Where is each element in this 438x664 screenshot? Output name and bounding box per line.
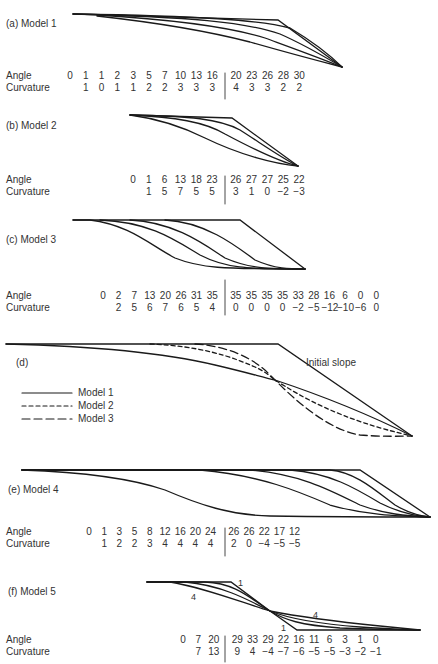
panel-e-curvature-value: 4 bbox=[203, 538, 219, 549]
panel-c-angle-value: 0 bbox=[368, 290, 384, 301]
panel-f-angle-value: 1 bbox=[352, 634, 368, 645]
panel-c-angle-value: 16 bbox=[321, 290, 337, 301]
panel-c-curvature-value: 7 bbox=[157, 302, 173, 313]
panel-b-angle-value: 18 bbox=[188, 174, 204, 185]
panel-c-angle-value: 35 bbox=[243, 290, 259, 301]
panel-b-angle-value: 0 bbox=[125, 174, 141, 185]
panel-b-angle-value: 25 bbox=[275, 174, 291, 185]
panel-f-curvature-value: 9 bbox=[229, 646, 245, 657]
panel-e-curvature-value: −4 bbox=[256, 538, 272, 549]
panel-a-angle-value: 26 bbox=[260, 70, 276, 81]
panel-c-angle-value: 2 bbox=[111, 290, 127, 301]
panel-c-angle-value: 20 bbox=[157, 290, 173, 301]
panel-e-curvature-value: 3 bbox=[142, 538, 158, 549]
panel-a-label: (a) Model 1 bbox=[6, 18, 57, 29]
panel-c-curvature-value: −6 bbox=[353, 302, 369, 313]
panel-f-curvature-value: 13 bbox=[206, 646, 222, 657]
initial-slope-annotation: Initial slope bbox=[306, 357, 356, 368]
panel-f-curvature-label: Curvature bbox=[6, 646, 50, 657]
curve-mark-1-top: 1 bbox=[238, 578, 243, 588]
panel-f-angle-value: 6 bbox=[322, 634, 338, 645]
panel-c-angle-value: 31 bbox=[189, 290, 205, 301]
panel-a-angle-value: 16 bbox=[204, 70, 220, 81]
panel-c-angle-value: 0 bbox=[95, 290, 111, 301]
panel-c-curvature-value: −12 bbox=[321, 302, 337, 313]
panel-f-curvature-value: 7 bbox=[190, 646, 206, 657]
panel-e-curvature-label: Curvature bbox=[6, 538, 50, 549]
panel-d-label: (d) bbox=[16, 357, 28, 368]
panel-a-curves bbox=[73, 14, 342, 67]
panel-f-angle-value: 33 bbox=[245, 634, 261, 645]
panel-b-angle-label: Angle bbox=[6, 174, 32, 185]
panel-c-curvature-value: 2 bbox=[111, 302, 127, 313]
panel-c-angle-value: 13 bbox=[142, 290, 158, 301]
panel-c-angle-value: 35 bbox=[259, 290, 275, 301]
panel-c-angle-value: 0 bbox=[353, 290, 369, 301]
panel-a-curvature-value: 0 bbox=[94, 82, 110, 93]
panel-a-curvature-value: 2 bbox=[157, 82, 173, 93]
panel-f-angle-value: 11 bbox=[306, 634, 322, 645]
panel-c-curves bbox=[73, 220, 305, 269]
panel-c-angle-label: Angle bbox=[6, 290, 32, 301]
panel-c-angle-value: 26 bbox=[173, 290, 189, 301]
panel-a-angle-value: 7 bbox=[157, 70, 173, 81]
panel-c-angle-value: 6 bbox=[337, 290, 353, 301]
panel-e-angle-value: 20 bbox=[187, 526, 203, 537]
slope-profile-figure bbox=[0, 0, 438, 664]
panel-f-angle-value: 7 bbox=[190, 634, 206, 645]
panel-f-angle-value: 29 bbox=[229, 634, 245, 645]
panel-a-curvature-value: 1 bbox=[78, 82, 94, 93]
panel-b-curves bbox=[130, 115, 298, 166]
panel-a-curvature-value: 4 bbox=[228, 82, 244, 93]
panel-b-angle-value: 23 bbox=[204, 174, 220, 185]
panel-f-curvature-value: −5 bbox=[322, 646, 338, 657]
panel-e-angle-value: 8 bbox=[142, 526, 158, 537]
panel-b-angle-value: 1 bbox=[141, 174, 157, 185]
panel-f-angle-value: 29 bbox=[260, 634, 276, 645]
panel-b-angle-value: 22 bbox=[291, 174, 307, 185]
panel-e-curvature-value: 0 bbox=[241, 538, 257, 549]
panel-c-label: (c) Model 3 bbox=[6, 234, 56, 245]
panel-a-curvature-value: 2 bbox=[291, 82, 307, 93]
panel-e-curvature-value: 4 bbox=[157, 538, 173, 549]
panel-b-angle-value: 13 bbox=[172, 174, 188, 185]
panel-c-curvature-value: 5 bbox=[189, 302, 205, 313]
panel-f-curvature-value: −6 bbox=[291, 646, 307, 657]
panel-f-angle-value: 16 bbox=[291, 634, 307, 645]
panel-d-legend-lines bbox=[22, 393, 72, 419]
model-2-line bbox=[150, 344, 412, 436]
panel-b-curvature-value: 7 bbox=[172, 186, 188, 197]
panel-f-label: (f) Model 5 bbox=[8, 586, 56, 597]
panel-c-angle-value: 33 bbox=[290, 290, 306, 301]
panel-a-curvature-value: 2 bbox=[275, 82, 291, 93]
panel-e-curves bbox=[22, 470, 430, 517]
panel-e-curvature-value: 4 bbox=[187, 538, 203, 549]
panel-a-angle-value: 1 bbox=[94, 70, 110, 81]
panel-e-curvature-value: 2 bbox=[226, 538, 242, 549]
panel-c-curvature-value: 0 bbox=[259, 302, 275, 313]
panel-b-curvature-value: 1 bbox=[141, 186, 157, 197]
legend-model-1: Model 1 bbox=[78, 387, 114, 398]
panel-a-curvature-value: 1 bbox=[109, 82, 125, 93]
panel-c-curvature-value: 0 bbox=[243, 302, 259, 313]
panel-a-angle-value: 28 bbox=[275, 70, 291, 81]
panel-a-curvature-value: 3 bbox=[244, 82, 260, 93]
panel-f-angle-value: 20 bbox=[206, 634, 222, 645]
panel-e-curvature-value: 1 bbox=[96, 538, 112, 549]
panel-a-curvature-value: 3 bbox=[204, 82, 220, 93]
curve-mark-4-top: 4 bbox=[191, 592, 196, 602]
panel-f-curvature-value: −5 bbox=[306, 646, 322, 657]
panel-f-angle-value: 0 bbox=[175, 634, 191, 645]
panel-a-angle-value: 30 bbox=[291, 70, 307, 81]
panel-a-curvature-value: 3 bbox=[260, 82, 276, 93]
panel-a-angle-value: 20 bbox=[228, 70, 244, 81]
panel-b-curvature-value: −2 bbox=[275, 186, 291, 197]
panel-a-angle-value: 10 bbox=[173, 70, 189, 81]
panel-e-angle-value: 16 bbox=[172, 526, 188, 537]
panel-b-curvature-value: −3 bbox=[291, 186, 307, 197]
panel-a-curvature-value: 3 bbox=[188, 82, 204, 93]
panel-b-curvature-value: 5 bbox=[157, 186, 173, 197]
panel-e-curvature-value: 2 bbox=[111, 538, 127, 549]
panel-c-curvature-value: 0 bbox=[228, 302, 244, 313]
panel-a-curvature-value: 1 bbox=[125, 82, 141, 93]
